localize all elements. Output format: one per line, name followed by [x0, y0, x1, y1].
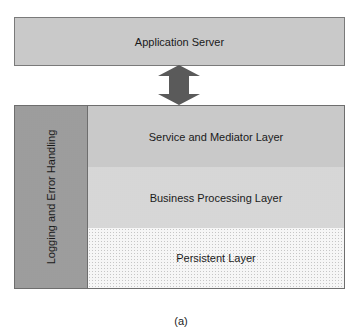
service-mediator-layer: Service and Mediator Layer [88, 106, 344, 168]
layer-label: Business Processing Layer [150, 192, 283, 204]
application-server-label: Application Server [135, 36, 224, 48]
logging-error-handling-panel: Logging and Error Handling [15, 106, 88, 288]
business-processing-layer: Business Processing Layer [88, 167, 344, 229]
persistent-layer: Persistent Layer [88, 228, 344, 288]
layer-stack: Logging and Error Handling Service and M… [14, 105, 345, 289]
bidirectional-arrow-icon [158, 65, 200, 105]
layer-label: Service and Mediator Layer [149, 131, 284, 143]
layer-label: Persistent Layer [176, 252, 255, 264]
logging-error-handling-label: Logging and Error Handling [45, 130, 57, 265]
application-server-box: Application Server [14, 17, 345, 66]
figure-caption: (a) [0, 315, 356, 327]
